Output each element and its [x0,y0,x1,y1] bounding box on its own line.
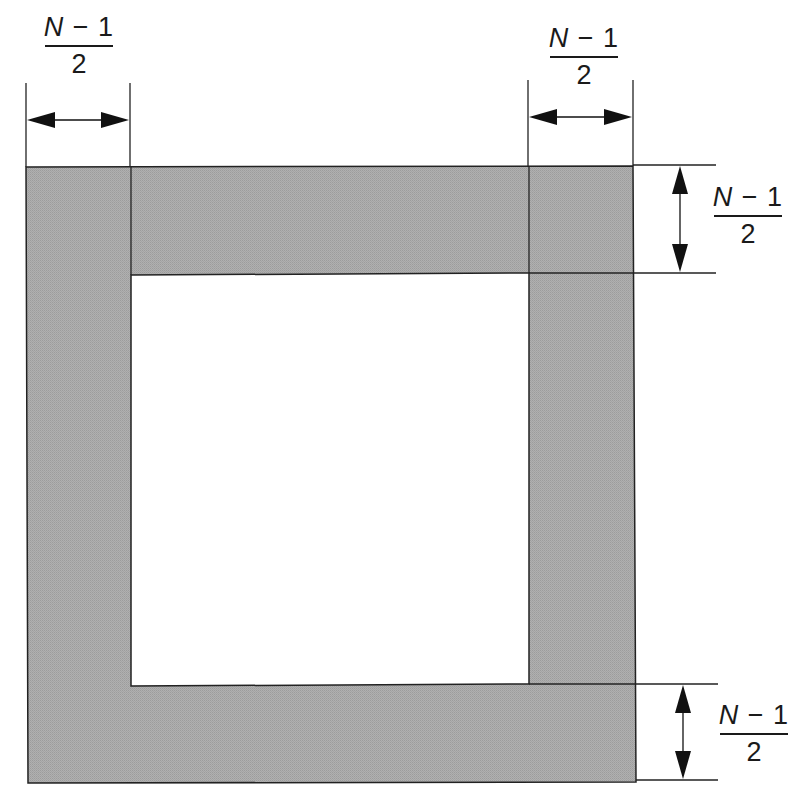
arrowhead-right-icon [101,112,129,128]
fraction-numerator: N − 1 [539,23,629,53]
arrowhead-left-icon [529,109,557,125]
fraction-numerator: N − 1 [709,700,799,730]
fraction-denominator: 2 [703,219,793,249]
top-left-dimension [26,83,130,167]
fraction-denominator: 2 [539,60,629,90]
right-bottom-fraction-label: N − 1 2 [709,700,799,767]
top-right-fraction-label: N − 1 2 [539,23,629,90]
top-right-dimension [528,80,633,166]
border-region-diagram [0,0,812,809]
arrowhead-up-icon [672,166,688,194]
fraction-numerator: N − 1 [34,12,124,42]
arrowhead-down-icon [672,244,688,272]
right-bottom-dimension [636,684,718,780]
fraction-numerator: N − 1 [703,182,793,212]
arrowhead-right-icon [604,109,632,125]
arrowhead-left-icon [27,112,55,128]
fraction-denominator: 2 [34,49,124,79]
shaded-border-region [26,166,636,783]
fraction-denominator: 2 [709,737,799,767]
fraction-bar [714,215,782,217]
right-top-fraction-label: N − 1 2 [703,182,793,249]
fraction-bar [720,733,788,735]
top-left-fraction-label: N − 1 2 [34,12,124,79]
fraction-bar [45,45,113,47]
arrowhead-down-icon [675,751,691,779]
fraction-bar [550,56,618,58]
arrowhead-up-icon [675,685,691,713]
